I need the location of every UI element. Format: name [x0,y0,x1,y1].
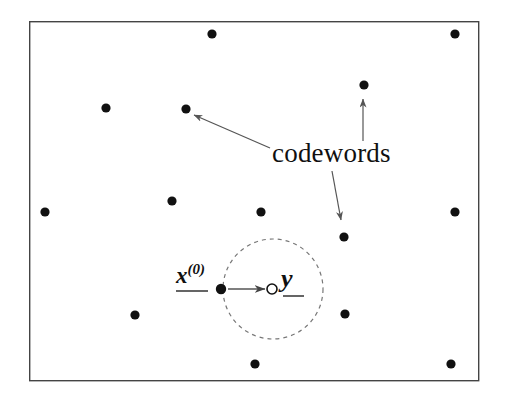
x0-point [216,284,226,294]
codeword-point [339,232,348,241]
codeword-point [256,207,265,216]
codeword-point [207,29,216,38]
diagram-canvas: codewords x(0) y [0,0,505,401]
diagram-frame [30,22,479,381]
codeword-point [250,359,259,368]
codewords-annotation-label: codewords [272,140,391,167]
x0-superscript: (0) [188,261,206,277]
codeword-point [446,359,455,368]
x0-annotation-label: x(0) [176,262,205,287]
y-annotation-label: y [281,266,293,292]
codeword-point [101,103,110,112]
codeword-point [340,309,349,318]
codeword-point [167,196,176,205]
codeword-point [450,207,459,216]
codeword-point [450,29,459,38]
codeword-point [130,310,139,319]
x0-base-symbol: x [176,263,188,288]
codeword-point [359,80,368,89]
y-point [267,284,277,294]
codeword-point [181,104,190,113]
codeword-point [40,207,49,216]
codeword-lattice-figure [0,0,505,401]
